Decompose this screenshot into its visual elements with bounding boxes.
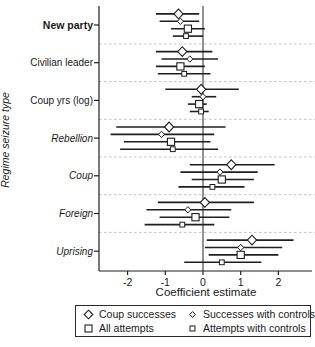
category-label: Coup yrs (log) — [30, 95, 93, 106]
small-square-marker — [219, 260, 224, 265]
diamond-marker — [174, 9, 183, 19]
square-marker — [237, 251, 244, 258]
small-square-icon — [187, 323, 198, 334]
diamond-marker — [165, 122, 174, 132]
x-axis-title: Coefficient estimate — [156, 286, 257, 298]
square-marker — [192, 214, 199, 221]
legend-label: Attempts with controls — [203, 323, 306, 334]
x-tick-label: -2 — [123, 276, 132, 288]
square-marker — [196, 101, 203, 108]
small-square-marker — [170, 147, 175, 152]
small-square-marker — [184, 34, 189, 39]
legend-item-successes-with-controls: Successes with controls — [187, 309, 315, 320]
small-diamond-marker — [238, 244, 244, 250]
y-axis-title: Regime seizure type — [0, 92, 11, 188]
small-square-marker — [210, 185, 215, 190]
square-marker — [184, 25, 191, 32]
x-tick-label: 2 — [275, 276, 281, 288]
square-marker — [167, 138, 174, 145]
small-diamond-marker — [187, 56, 193, 62]
square-marker — [177, 63, 184, 70]
category-label: Foreign — [59, 208, 93, 219]
small-diamond-marker — [159, 131, 165, 137]
category-label: Civilian leader — [30, 57, 93, 68]
square-marker — [218, 176, 225, 183]
coefficient-plot-figure: -2-1012New partyCivilian leaderCoup yrs … — [0, 0, 315, 347]
diamond-marker — [178, 47, 187, 57]
category-label: Rebellion — [51, 133, 93, 144]
diamond-marker — [227, 160, 236, 170]
diamond-marker — [197, 84, 206, 94]
small-diamond-marker — [185, 207, 191, 213]
diamond-marker — [200, 198, 209, 208]
diamond-icon — [83, 309, 94, 320]
category-label: Uprising — [56, 246, 93, 257]
square-icon — [83, 323, 94, 334]
legend-item-attempts-with-controls: Attempts with controls — [187, 323, 315, 334]
legend-label: Coup successes — [99, 309, 176, 320]
legend-item-all-attempts: All attempts — [83, 323, 187, 334]
small-diamond-icon — [187, 309, 198, 320]
category-label: Coup — [69, 170, 93, 181]
legend-item-coup-successes: Coup successes — [83, 309, 187, 320]
small-square-marker — [182, 71, 187, 76]
small-diamond-marker — [217, 169, 223, 175]
category-label: New party — [43, 19, 93, 31]
small-square-marker — [199, 109, 204, 114]
small-square-marker — [180, 222, 185, 227]
diamond-marker — [247, 235, 256, 245]
legend: Coup successes All attempts Successes wi… — [75, 305, 311, 337]
chart-area: -2-1012New partyCivilian leaderCoup yrs … — [0, 0, 315, 305]
chart-svg: -2-1012New partyCivilian leaderCoup yrs … — [0, 0, 315, 305]
legend-label: All attempts — [99, 323, 154, 334]
legend-label: Successes with controls — [203, 309, 315, 320]
